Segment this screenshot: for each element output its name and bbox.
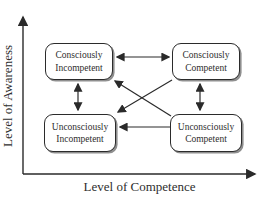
four-stages-of-competence-diagram: Consciously Incompetent Consciously Comp… [0, 0, 268, 206]
box-label: Consciously Incompetent [50, 49, 108, 74]
box-label: Consciously Competent [177, 49, 235, 74]
box-consciously-incompetent: Consciously Incompetent [45, 43, 113, 80]
diagram-lines [0, 0, 268, 206]
x-axis-label: Level of Competence [23, 179, 256, 195]
arrow-cc-ui [118, 80, 172, 112]
box-label: Unconsciously Incompetent [49, 121, 111, 146]
box-unconsciously-competent: Unconsciously Competent [170, 114, 242, 152]
box-label: Unconsciously Competent [175, 121, 237, 146]
box-unconsciously-incompetent: Unconsciously Incompetent [44, 114, 116, 152]
box-consciously-competent: Consciously Competent [172, 43, 240, 80]
y-axis-label: Level of Awareness [0, 16, 16, 176]
